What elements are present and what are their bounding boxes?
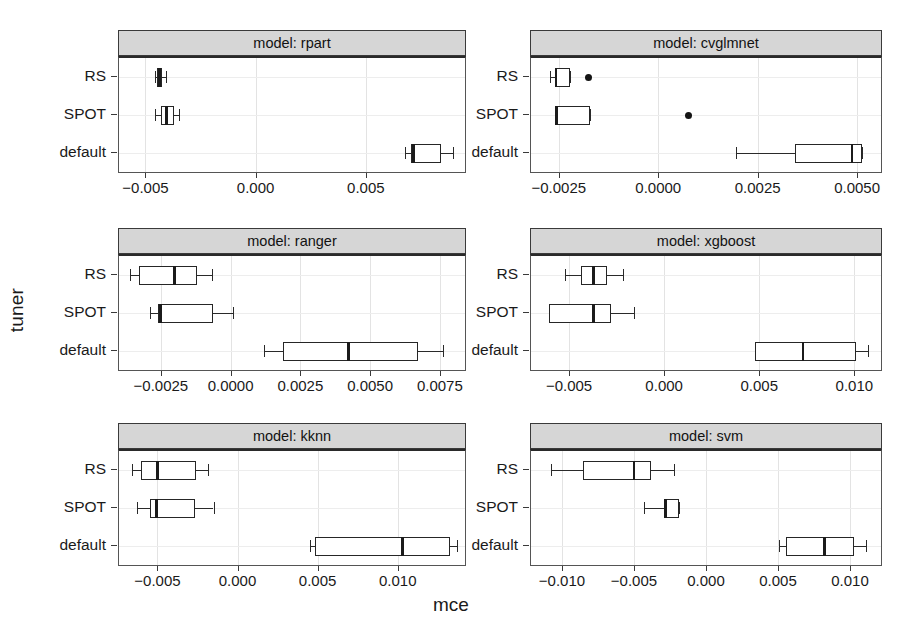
y-axis-tick-label-RS: RS <box>496 67 518 85</box>
x-axis-tick-label: 0.0000 <box>635 179 681 196</box>
facet-panel-svm <box>530 449 882 566</box>
y-axis-tick-label-RS: RS <box>84 460 106 478</box>
x-axis-tick <box>157 566 158 571</box>
box-iqr <box>315 537 450 556</box>
x-axis-tick-label: −0.005 <box>122 179 168 196</box>
y-axis-tick-label-default: default <box>471 341 518 359</box>
box-iqr <box>283 342 418 361</box>
x-axis-tick <box>706 566 707 571</box>
y-axis-tick <box>523 114 529 115</box>
cap-upper <box>443 345 444 356</box>
y-axis-tick-label-RS: RS <box>496 460 518 478</box>
x-axis-tick <box>778 566 779 571</box>
facet-panel-kknn <box>118 449 466 566</box>
y-axis-tick-label-RS: RS <box>496 265 518 283</box>
y-axis-tick-label-default: default <box>471 143 518 161</box>
box-iqr <box>411 144 441 163</box>
boxplot-svm-default <box>531 451 881 565</box>
whisker-upper <box>450 546 457 547</box>
facet-strip-label-kknn: model: kknn <box>118 423 466 449</box>
y-axis-tick-label-SPOT: SPOT <box>476 498 518 516</box>
facet-kknn: model: kknn−0.0050.0000.0050.010RSSPOTde… <box>118 423 466 566</box>
whisker-upper <box>854 546 866 547</box>
cap-upper <box>457 540 458 551</box>
y-axis-tick-label-SPOT: SPOT <box>476 303 518 321</box>
cap-lower <box>264 345 265 356</box>
median-line <box>347 342 350 361</box>
y-axis-tick <box>111 545 117 546</box>
boxplot-cvglmnet-default <box>531 58 881 172</box>
x-axis-tick-label: −0.005 <box>546 377 592 394</box>
cap-lower <box>736 147 737 158</box>
x-axis-tick-label: 0.0025 <box>277 377 323 394</box>
x-axis-tick-label: 0.005 <box>347 179 385 196</box>
y-axis-tick <box>523 152 529 153</box>
x-axis-tick-label: 0.000 <box>687 572 725 589</box>
y-axis-tick-label-default: default <box>59 536 106 554</box>
y-axis-tick <box>111 469 117 470</box>
median-line <box>412 144 415 163</box>
x-axis-tick-label: 0.000 <box>645 377 683 394</box>
x-axis-tick <box>440 371 441 376</box>
x-axis-tick-label: 0.0050 <box>834 179 880 196</box>
y-axis-tick-label-RS: RS <box>84 265 106 283</box>
x-axis-tick <box>759 371 760 376</box>
x-axis-tick-label: 0.005 <box>740 377 778 394</box>
x-axis-tick <box>664 371 665 376</box>
cap-lower <box>405 147 406 158</box>
facet-strip-label-rpart: model: rpart <box>118 30 466 56</box>
cap-lower <box>310 540 311 551</box>
x-axis-tick <box>161 371 162 376</box>
x-axis-tick <box>366 173 367 178</box>
median-line <box>401 537 404 556</box>
x-axis-tick-label: 0.010 <box>379 572 417 589</box>
x-axis-tick-label: 0.000 <box>219 572 257 589</box>
x-axis-tick-label: −0.005 <box>611 572 657 589</box>
x-axis-tick <box>231 371 232 376</box>
x-axis-tick-label: −0.0025 <box>532 179 587 196</box>
facet-strip-label-cvglmnet: model: cvglmnet <box>530 30 882 56</box>
x-axis-tick <box>145 173 146 178</box>
x-axis-tick <box>238 566 239 571</box>
whisker-lower <box>264 351 283 352</box>
x-axis-tick <box>854 371 855 376</box>
median-line <box>851 144 854 163</box>
facet-svm: model: svm−0.010−0.0050.0000.0050.010RSS… <box>530 423 882 566</box>
x-axis-tick-label: 0.005 <box>759 572 797 589</box>
y-axis-tick-label-SPOT: SPOT <box>64 303 106 321</box>
y-axis-tick <box>111 152 117 153</box>
facet-strip-label-ranger: model: ranger <box>118 228 466 254</box>
x-axis-tick <box>562 566 563 571</box>
facet-strip-label-xgboost: model: xgboost <box>530 228 882 254</box>
boxplot-rpart-default <box>119 58 465 172</box>
y-axis-tick <box>523 312 529 313</box>
x-axis-tick <box>857 173 858 178</box>
facet-xgboost: model: xgboost−0.0050.0000.0050.010RSSPO… <box>530 228 882 371</box>
x-axis-tick <box>318 566 319 571</box>
y-axis-tick <box>523 76 529 77</box>
cap-upper <box>862 147 863 158</box>
facet-panel-rpart <box>118 56 466 173</box>
x-axis-tick <box>559 173 560 178</box>
median-line <box>823 537 826 556</box>
facet-strip-label-svm: model: svm <box>530 423 882 449</box>
boxplot-figure: tuner mce model: rpart−0.0050.0000.005RS… <box>0 0 902 620</box>
whisker-upper <box>856 351 867 352</box>
y-axis-tick <box>523 507 529 508</box>
y-axis-tick <box>111 507 117 508</box>
y-axis-tick <box>111 274 117 275</box>
x-axis-tick-label: 0.0025 <box>735 179 781 196</box>
median-line <box>802 342 805 361</box>
y-axis-tick-label-default: default <box>59 143 106 161</box>
box-iqr <box>755 342 857 361</box>
facet-panel-xgboost <box>530 254 882 371</box>
x-axis-tick-label: 0.0075 <box>417 377 463 394</box>
whisker-lower <box>736 153 795 154</box>
x-axis-tick <box>658 173 659 178</box>
y-axis-tick-label-default: default <box>59 341 106 359</box>
x-axis-tick-label: 0.010 <box>836 377 874 394</box>
facet-panel-cvglmnet <box>530 56 882 173</box>
box-iqr <box>786 537 854 556</box>
x-axis-tick <box>758 173 759 178</box>
facet-panel-ranger <box>118 254 466 371</box>
